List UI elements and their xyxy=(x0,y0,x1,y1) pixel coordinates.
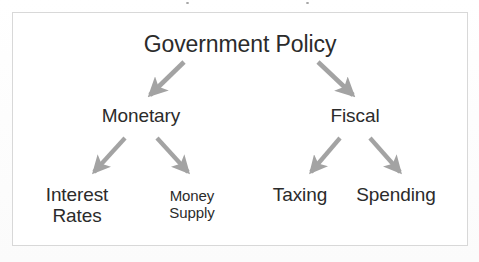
node-government-policy: Government Policy xyxy=(144,32,337,58)
node-spending: Spending xyxy=(356,184,436,205)
scan-speck xyxy=(186,2,189,4)
node-interest-rates: Interest Rates xyxy=(46,184,109,227)
diagram-canvas: Government Policy Monetary Fiscal Intere… xyxy=(0,0,479,262)
node-money-supply: Money Supply xyxy=(169,188,214,222)
node-taxing: Taxing xyxy=(273,184,327,205)
scan-speck xyxy=(306,2,309,4)
node-monetary: Monetary xyxy=(102,105,180,126)
node-fiscal: Fiscal xyxy=(330,105,379,126)
